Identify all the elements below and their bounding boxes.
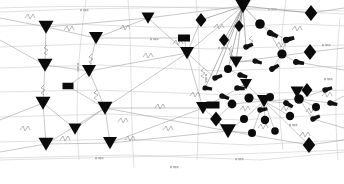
label-tick <box>324 78 326 80</box>
label-tick <box>292 124 295 126</box>
label-tick <box>330 78 332 80</box>
circle-glyph <box>224 65 232 73</box>
label-tick <box>153 38 156 40</box>
label-mark-group <box>235 158 243 160</box>
node-circle <box>294 94 304 104</box>
label-tick <box>86 9 88 11</box>
label-mark-group <box>170 166 178 168</box>
label-tick <box>83 9 86 11</box>
node-circle <box>224 65 232 73</box>
label-tick <box>271 8 274 10</box>
node-circle <box>271 127 279 135</box>
label-mark-group <box>324 78 332 80</box>
label-tick <box>101 157 103 159</box>
node-circle <box>248 129 256 137</box>
diagram-canvas <box>0 0 344 184</box>
rectangle-glyph <box>63 83 74 90</box>
label-tick <box>176 166 178 168</box>
label-tick <box>241 158 243 160</box>
label-tick <box>205 80 207 82</box>
node-circle <box>255 19 265 29</box>
node-circle <box>244 93 253 102</box>
circle-glyph <box>286 112 294 120</box>
label-tick <box>268 8 270 10</box>
label-mark-group <box>150 38 158 40</box>
node-circle <box>261 116 269 124</box>
label-tick <box>205 77 207 80</box>
label-tick <box>328 44 330 46</box>
circle-glyph <box>255 19 265 29</box>
node-circle <box>277 49 286 58</box>
label-tick <box>327 78 330 80</box>
label-tick <box>274 8 276 10</box>
node-rectangle <box>178 35 190 42</box>
label-mark-group <box>205 74 207 82</box>
circle-glyph <box>312 103 320 111</box>
node-circle <box>286 112 294 120</box>
rectangle-glyph <box>207 102 220 109</box>
circle-glyph <box>261 116 269 124</box>
node-circle <box>266 93 274 101</box>
circle-glyph <box>271 127 279 135</box>
network-schematic <box>0 0 344 184</box>
rectangle-glyph <box>178 35 190 42</box>
label-tick <box>173 166 176 168</box>
label-tick <box>218 47 220 49</box>
label-tick <box>238 158 241 160</box>
label-tick <box>95 157 97 159</box>
label-mark-group <box>218 47 226 49</box>
label-tick <box>235 158 237 160</box>
label-tick <box>205 74 207 76</box>
node-rectangle <box>207 102 220 109</box>
label-mark-group <box>268 8 276 10</box>
label-mark-group <box>322 44 330 46</box>
label-tick <box>80 9 82 11</box>
node-circle <box>312 103 320 111</box>
label-mark-group <box>77 63 79 71</box>
label-tick <box>98 157 101 159</box>
node-circle <box>228 100 237 109</box>
label-tick <box>289 124 291 126</box>
label-mark-group <box>80 9 88 11</box>
label-tick <box>77 63 79 65</box>
label-tick <box>150 38 152 40</box>
node-circle <box>240 115 248 123</box>
label-tick <box>325 44 328 46</box>
circle-glyph <box>228 100 237 109</box>
label-mark-group <box>289 124 297 126</box>
label-tick <box>224 47 226 49</box>
label-tick <box>170 166 172 168</box>
circle-glyph <box>277 49 286 58</box>
circle-glyph <box>244 93 253 102</box>
label-tick <box>221 47 224 49</box>
label-tick <box>322 44 324 46</box>
label-mark-group <box>95 157 103 159</box>
circle-glyph <box>266 93 274 101</box>
circle-glyph <box>248 129 256 137</box>
circle-glyph <box>294 94 304 104</box>
node-rectangle <box>63 83 74 90</box>
label-tick <box>156 38 158 40</box>
label-tick <box>295 124 297 126</box>
circle-glyph <box>240 115 248 123</box>
label-tick <box>77 69 79 71</box>
label-tick <box>77 66 79 69</box>
